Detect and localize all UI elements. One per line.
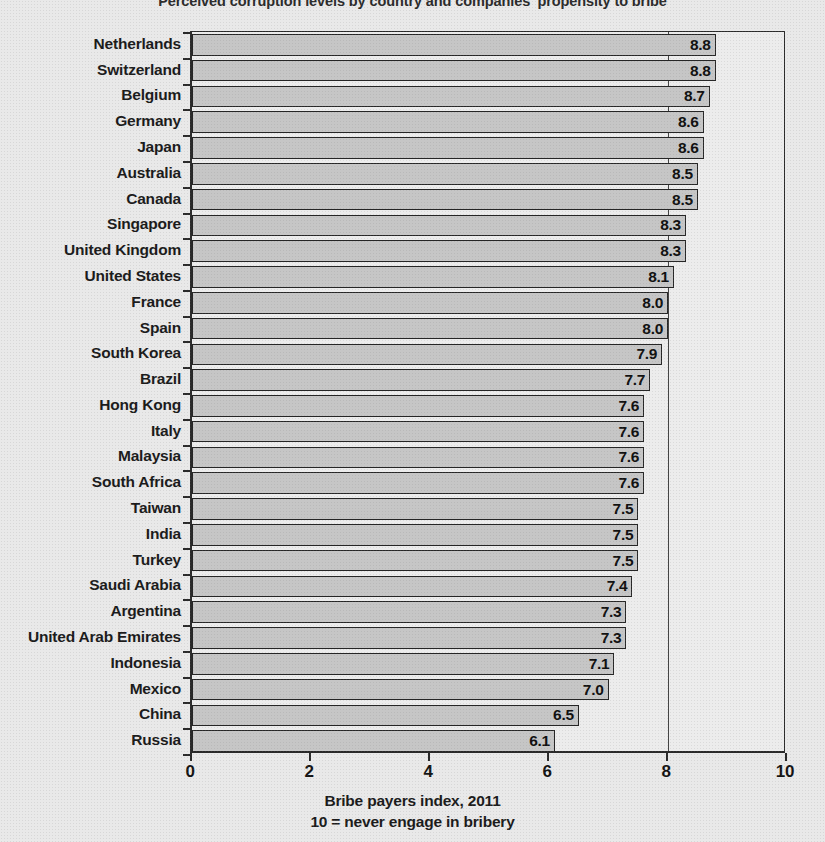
y-axis-tick [183,32,192,34]
bar-row: 8.5 [192,163,784,185]
bar-value-label: 7.6 [619,424,640,440]
category-label-australia: Australia [116,164,181,182]
bar-row: 8.0 [192,292,784,314]
x-axis-tick-0 [190,753,192,761]
x-axis-label-block: Bribe payers index, 2011 10 = never enga… [0,790,825,832]
x-axis-tick-label-4: 4 [423,762,432,782]
bar-row: 7.6 [192,395,784,417]
bar-value-label: 6.5 [553,708,574,724]
x-axis-tick-label-0: 0 [185,762,194,782]
category-label-argentina: Argentina [110,602,181,620]
bar-row: 7.5 [192,550,784,572]
y-axis-tick [183,419,192,421]
bar: 8.6 [192,137,704,159]
bar-value-label: 8.5 [672,166,693,182]
category-label-saudi-arabia: Saudi Arabia [89,576,181,594]
bar-row: 8.0 [192,318,784,340]
y-axis-tick [183,677,192,679]
category-label-singapore: Singapore [107,215,181,233]
chart-figure: Perceived corruption levels by country a… [0,0,825,842]
bar-row: 6.1 [192,730,784,752]
bar-row: 7.4 [192,576,784,598]
bar: 8.6 [192,111,704,133]
bar-row: 7.6 [192,472,784,494]
bar-row: 7.5 [192,498,784,520]
y-axis-tick [183,522,192,524]
bar-value-label: 7.1 [589,656,610,672]
bar-value-label: 7.5 [613,553,634,569]
y-axis-tick [183,367,192,369]
y-axis-tick [183,213,192,215]
category-label-spain: Spain [140,319,181,337]
bar-value-label: 7.5 [613,527,634,543]
bar-row: 7.1 [192,653,784,675]
y-axis-tick [183,316,192,318]
y-axis-tick [183,109,192,111]
category-label-switzerland: Switzerland [97,61,181,79]
bar-value-label: 8.8 [690,37,711,53]
bar-value-label: 7.7 [624,372,645,388]
bar-value-label: 7.3 [601,604,622,620]
bar: 6.5 [192,705,579,727]
bar: 8.1 [192,266,674,288]
x-axis-tick-6 [547,753,549,761]
category-label-malaysia: Malaysia [118,447,181,465]
category-label-hong-kong: Hong Kong [99,396,181,414]
bar: 7.1 [192,653,614,675]
bar-value-label: 8.0 [642,321,663,337]
y-axis-tick [183,393,192,395]
category-label-united-states: United States [85,267,181,285]
bar: 8.3 [192,240,686,262]
category-label-south-africa: South Africa [92,473,181,491]
category-label-turkey: Turkey [133,551,181,569]
bar: 7.6 [192,472,644,494]
plot-area: 8.88.88.78.68.68.58.58.38.38.18.08.07.97… [190,31,785,753]
bar-value-label: 8.0 [642,295,663,311]
bar-value-label: 7.6 [619,450,640,466]
x-axis-tick-4 [428,753,430,761]
bar-row: 8.8 [192,34,784,56]
bar: 7.7 [192,369,650,391]
bar-value-label: 8.6 [678,114,699,130]
category-label-china: China [139,705,181,723]
category-label-japan: Japan [137,138,181,156]
bar-value-label: 7.6 [619,398,640,414]
category-label-south-korea: South Korea [91,344,181,362]
bar-value-label: 7.6 [619,475,640,491]
bar: 8.5 [192,163,698,185]
y-axis-tick [183,496,192,498]
bar: 7.5 [192,550,638,572]
bar-row: 8.6 [192,137,784,159]
bar-row: 8.8 [192,60,784,82]
bar-value-label: 6.1 [529,733,550,749]
bar: 8.0 [192,292,668,314]
category-label-indonesia: Indonesia [110,654,181,672]
x-axis-tick-8 [666,753,668,761]
bar-group: 8.88.88.78.68.68.58.58.38.38.18.08.07.97… [192,32,784,751]
category-label-canada: Canada [126,190,181,208]
category-label-netherlands: Netherlands [94,35,181,53]
y-axis-tick [183,625,192,627]
bar: 7.0 [192,679,609,701]
category-label-italy: Italy [151,422,181,440]
bar-row: 8.1 [192,266,784,288]
bar: 7.6 [192,447,644,469]
bar: 8.3 [192,215,686,237]
y-axis-tick [183,548,192,550]
y-axis-tick [183,702,192,704]
bar-row: 8.3 [192,215,784,237]
category-label-russia: Russia [131,731,181,749]
y-axis-tick [183,58,192,60]
bar: 7.6 [192,421,644,443]
bar-value-label: 8.8 [690,63,711,79]
bar: 8.8 [192,60,716,82]
bar-row: 8.5 [192,189,784,211]
bar: 6.1 [192,730,555,752]
x-axis-tick-label-6: 6 [542,762,551,782]
category-label-united-arab-emirates: United Arab Emirates [28,628,181,646]
category-label-united-kingdom: United Kingdom [64,241,181,259]
y-axis-tick [183,728,192,730]
category-label-belgium: Belgium [121,86,181,104]
bar-row: 6.5 [192,705,784,727]
chart-title: Perceived corruption levels by country a… [0,0,825,9]
